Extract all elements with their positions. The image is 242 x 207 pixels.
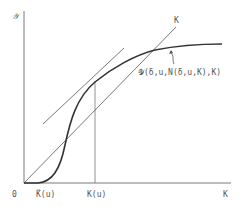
x-tick-k-u: K(u) <box>87 191 106 199</box>
x-axis-label: K <box>223 191 228 199</box>
ray-label: K <box>174 17 179 25</box>
y-axis-label: 𝒴 <box>12 13 18 21</box>
curve-label: 𝒴(δ,u,N(δ,u,K),K) <box>138 69 221 77</box>
x-tick-k-tilde-u: K̃(u) <box>36 191 55 199</box>
diagram-svg <box>0 0 242 207</box>
diagram-canvas: 𝒴 0 K̃(u) K(u) K K 𝒴(δ,u,N(δ,u,K),K) <box>0 0 242 207</box>
origin-label: 0 <box>12 191 17 199</box>
tangent-line <box>43 48 124 124</box>
arrow-head-icon <box>169 50 173 54</box>
